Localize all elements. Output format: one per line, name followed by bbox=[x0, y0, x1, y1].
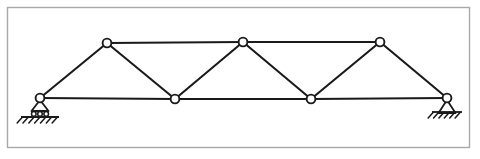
truss-diagram-figure bbox=[0, 0, 480, 159]
support-roller bbox=[38, 112, 43, 117]
node-top-node-1 bbox=[103, 39, 112, 48]
figure-background bbox=[0, 0, 480, 159]
member-bottom-chord-L2-L3 bbox=[311, 98, 447, 99]
node-top-node-2 bbox=[239, 38, 248, 47]
member-bottom-chord-L0-L1 bbox=[40, 98, 175, 99]
node-left-support-node bbox=[36, 94, 45, 103]
node-bottom-node-2 bbox=[307, 95, 316, 104]
node-right-support-node bbox=[443, 94, 452, 103]
support-roller bbox=[32, 112, 37, 117]
node-bottom-node-1 bbox=[171, 95, 180, 104]
node-top-node-3 bbox=[376, 38, 385, 47]
support-roller bbox=[44, 112, 49, 117]
truss-diagram-canvas bbox=[0, 0, 480, 159]
member-top-chord-U0-U1 bbox=[107, 42, 243, 43]
